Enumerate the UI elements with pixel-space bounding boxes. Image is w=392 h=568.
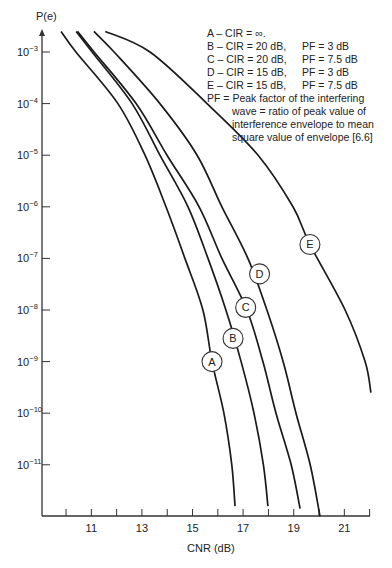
curve-label-c: C xyxy=(242,301,250,313)
pf-note-line2: wave = ratio of peak value of xyxy=(207,105,374,118)
x-tick-label: 17 xyxy=(237,522,249,534)
pf-note-line1: PF = Peak factor of the interfering xyxy=(207,92,374,105)
y-tick-label: 10−11 xyxy=(17,457,41,471)
y-axis-arrow-icon xyxy=(39,29,45,36)
pf-note-line3: interference envelope to mean xyxy=(207,118,374,131)
legend-cir-a: A – CIR = ∞. xyxy=(207,27,266,39)
y-tick-label: 10−6 xyxy=(17,199,38,213)
legend-pf-e: PF = 7.5 dB xyxy=(302,79,358,91)
legend-pf-d: PF = 3 dB xyxy=(302,66,349,78)
y-tick-label: 10−8 xyxy=(17,302,38,316)
x-tick-label: 19 xyxy=(288,522,300,534)
curve-label-e: E xyxy=(306,238,313,250)
x-tick-label: 15 xyxy=(186,522,198,534)
pf-note-line4: square value of envelope [6.6] xyxy=(207,131,374,144)
legend-row-d: D – CIR = 15 dB,PF = 3 dB xyxy=(207,66,374,79)
y-tick-label: 10−3 xyxy=(17,44,38,58)
x-tick-label: 21 xyxy=(338,522,350,534)
legend-pf-c: PF = 7.5 dB xyxy=(302,53,358,65)
legend-pf-b: PF = 3 dB xyxy=(302,40,349,52)
legend-cir-d: D – CIR = 15 dB, xyxy=(207,66,302,79)
curve-label-d: D xyxy=(256,268,264,280)
legend-row-a: A – CIR = ∞. xyxy=(207,27,374,40)
y-tick-label: 10−7 xyxy=(17,250,38,264)
legend-cir-e: E – CIR = 15 dB, xyxy=(207,79,302,92)
y-tick-label: 10−4 xyxy=(17,96,38,110)
curve-label-b: B xyxy=(229,332,236,344)
x-tick-label: 13 xyxy=(136,522,148,534)
legend-row-e: E – CIR = 15 dB,PF = 7.5 dB xyxy=(207,79,374,92)
x-axis-title: CNR (dB) xyxy=(187,542,235,554)
legend-cir-b: B – CIR = 20 dB, xyxy=(207,40,302,53)
y-tick-label: 10−5 xyxy=(17,147,38,161)
curve-label-a: A xyxy=(208,356,216,368)
y-tick-label: 10−9 xyxy=(17,354,38,368)
legend-cir-c: C – CIR = 20 dB, xyxy=(207,53,302,66)
y-tick-label: 10−10 xyxy=(17,405,42,419)
x-tick-label: 11 xyxy=(86,522,97,534)
legend: A – CIR = ∞. B – CIR = 20 dB,PF = 3 dB C… xyxy=(207,27,374,144)
legend-row-b: B – CIR = 20 dB,PF = 3 dB xyxy=(207,40,374,53)
legend-row-c: C – CIR = 20 dB,PF = 7.5 dB xyxy=(207,53,374,66)
